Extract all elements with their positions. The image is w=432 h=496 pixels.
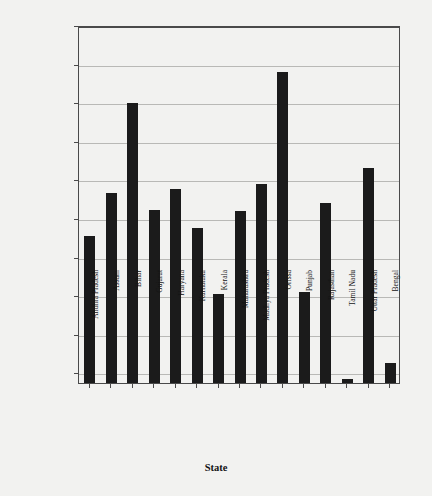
x-tick-label: Tamil Nadu	[349, 270, 357, 390]
x-tick-label: Punjab	[306, 270, 314, 390]
x-tick-mark	[175, 384, 176, 388]
y-tick-mark	[74, 180, 78, 181]
x-tick-mark	[282, 384, 283, 388]
x-tick-mark	[239, 384, 240, 388]
x-tick-mark	[153, 384, 154, 388]
x-tick-label: Madhya Pradesh	[263, 270, 271, 390]
x-tick-mark	[132, 384, 133, 388]
y-tick-mark	[74, 296, 78, 297]
x-tick-mark	[218, 384, 219, 388]
x-tick-label: Uttar Pradesh	[371, 270, 379, 390]
x-tick-label: Rajasthan	[328, 270, 336, 390]
x-tick-label: Orissa	[285, 270, 293, 390]
x-tick-mark	[389, 384, 390, 388]
x-tick-label: Kerala	[221, 270, 229, 390]
bar-chart-figure: Agricultural/Industrial Expenditure 0.25…	[0, 0, 432, 496]
x-tick-label: Haryana	[178, 270, 186, 390]
x-tick-label: Andhra Pradesh	[92, 270, 100, 390]
x-tick-mark	[325, 384, 326, 388]
y-tick-mark	[74, 258, 78, 259]
x-tick-mark	[260, 384, 261, 388]
y-tick-mark	[74, 26, 78, 27]
y-tick-mark	[74, 103, 78, 104]
x-tick-label: Bengal	[392, 270, 400, 390]
y-tick-mark	[74, 65, 78, 66]
x-tick-label: Bihar	[135, 270, 143, 390]
x-tick-label: Gujarat	[156, 270, 164, 390]
x-tick-mark	[303, 384, 304, 388]
x-tick-label: Karnataka	[199, 270, 207, 390]
x-axis-title: State	[0, 462, 432, 473]
x-tick-label: Maharashtra	[242, 270, 250, 390]
y-tick-mark	[74, 335, 78, 336]
y-tick-mark	[74, 373, 78, 374]
x-tick-mark	[196, 384, 197, 388]
x-tick-label: Assam	[113, 270, 121, 390]
x-tick-mark	[368, 384, 369, 388]
y-tick-mark	[74, 219, 78, 220]
x-tick-mark	[110, 384, 111, 388]
x-tick-mark	[346, 384, 347, 388]
x-tick-mark	[89, 384, 90, 388]
y-tick-mark	[74, 142, 78, 143]
